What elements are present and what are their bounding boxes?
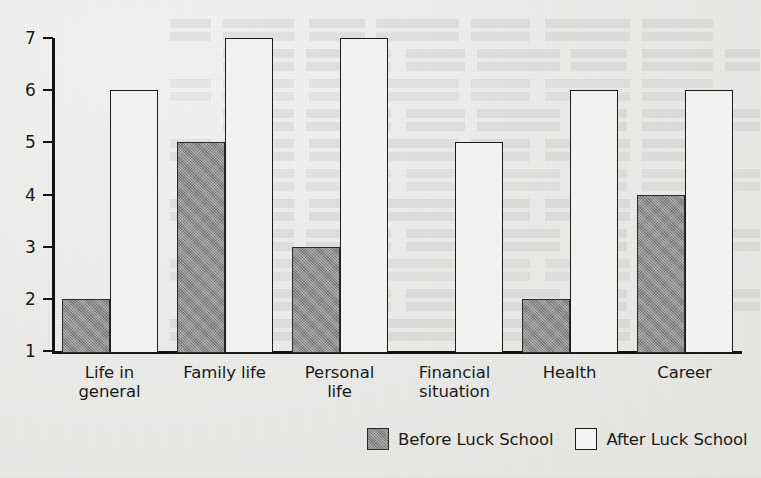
bar-after: [685, 90, 733, 353]
legend-label-before: Before Luck School: [398, 430, 553, 449]
bar-after: [570, 90, 618, 353]
bar-before: [522, 299, 570, 353]
chart-legend: Before Luck School After Luck School: [367, 428, 748, 450]
y-axis-tick-mark: [43, 194, 53, 196]
x-axis-category-label: Career: [617, 363, 752, 382]
x-axis-category-label-line: general: [42, 382, 177, 401]
y-axis-tick-label: 6: [14, 82, 36, 99]
y-axis-tick-label: 5: [14, 134, 36, 151]
y-axis-tick-label: 4: [14, 186, 36, 203]
y-axis-tick-label: 7: [14, 30, 36, 47]
x-axis-category-label-line: Career: [617, 363, 752, 382]
bar-before: [177, 142, 225, 353]
bar-after: [225, 38, 273, 353]
y-axis: [52, 38, 55, 353]
outlined-white-swatch-icon: [575, 428, 597, 450]
y-axis-tick-label: 1: [14, 343, 36, 360]
y-axis-tick-mark: [43, 89, 53, 91]
bar-after: [455, 142, 503, 353]
y-axis-tick-mark: [43, 141, 53, 143]
bar-before: [637, 195, 685, 354]
x-axis-category-label-line: situation: [387, 382, 522, 401]
bar-before: [292, 247, 340, 353]
y-axis-tick-mark: [43, 246, 53, 248]
legend-entry-before[interactable]: Before Luck School: [367, 428, 553, 450]
bar-after: [340, 38, 388, 353]
y-axis-tick-label: 2: [14, 290, 36, 307]
bar-after: [110, 90, 158, 353]
y-axis-tick-mark: [43, 350, 53, 352]
legend-label-after: After Luck School: [606, 430, 747, 449]
y-axis-tick-label: 3: [14, 238, 36, 255]
grouped-bar-chart: 1234567 Life ingeneralFamily lifePersona…: [0, 0, 761, 478]
y-axis-tick-mark: [43, 298, 53, 300]
filled-gray-swatch-icon: [367, 428, 389, 450]
legend-entry-after[interactable]: After Luck School: [575, 428, 747, 450]
bar-before: [62, 299, 110, 353]
y-axis-tick-mark: [43, 37, 53, 39]
